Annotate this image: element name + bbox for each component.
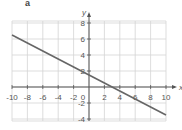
x-axis-arrow-icon [172,85,177,89]
line-chart: xy -10-8-6-4-20246810-4-22468 [0,0,182,130]
x-tick-label: -8 [24,93,32,102]
x-tick-label: -6 [39,93,47,102]
x-tick-label: 8 [148,93,153,102]
y-axis-label: y [81,8,87,17]
x-tick-label: -10 [6,93,18,102]
x-tick-label: -2 [70,93,78,102]
axes: xy [12,8,182,121]
y-tick-label: 4 [81,51,86,60]
x-axis-label: x [178,83,182,92]
y-axis-arrow-icon [87,12,91,17]
x-tick-label: 4 [118,93,123,102]
y-tick-label: 8 [81,19,86,28]
y-tick-label: 6 [81,35,86,44]
x-tick-label: 10 [162,93,171,102]
x-tick-label: 2 [102,93,107,102]
x-tick-label: -4 [55,93,63,102]
y-tick-label: -2 [78,99,86,108]
y-tick-label: -4 [78,115,86,124]
